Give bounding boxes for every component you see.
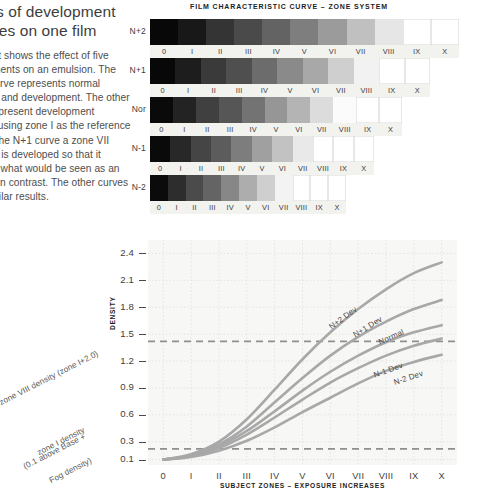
zone-swatch (231, 136, 251, 162)
zone-swatch (272, 136, 292, 162)
zone-tick-label: VIII (354, 84, 379, 97)
zone-swatch (328, 58, 353, 84)
zone-swatch (293, 136, 313, 162)
x-axis-title: SUBJECT ZONES – EXPOSURE INCREASES (148, 482, 457, 489)
zone-tick-label: 0 (150, 123, 173, 136)
zone-tick-label: II (196, 123, 219, 136)
zone-tick-label: III (226, 84, 251, 97)
zone-tick-label: VII (275, 201, 293, 214)
zone-swatch (277, 58, 302, 84)
zone-tick-label: III (211, 162, 231, 175)
x-axis-tick-label: VII (344, 471, 372, 481)
zone-swatch-set (150, 97, 402, 123)
zone-swatch (265, 97, 288, 123)
zone-tick-label: IV (242, 123, 265, 136)
zone-swatch (150, 58, 175, 84)
plot-svg (110, 235, 477, 493)
y-axis-tick-mark (139, 307, 146, 308)
x-axis-tick-label: VIII (372, 471, 400, 481)
zone-strip-row: N+20IIIIIIIVVVIVIIVIIIIXX (114, 19, 477, 58)
y-axis-tick-label: 0.9 (108, 381, 134, 392)
x-axis-tick-label: V (289, 471, 317, 481)
zone-swatch (234, 19, 262, 45)
zone-tick-label: V (290, 45, 318, 58)
y-axis-tick-mark (139, 388, 146, 389)
zone-swatch (403, 19, 431, 45)
zone-swatch (356, 97, 379, 123)
zone-swatch (290, 19, 318, 45)
zone-tick-label: 0 (150, 162, 170, 175)
y-axis-tick-mark (139, 361, 146, 362)
zone-swatch (333, 136, 353, 162)
zone-tick-label: VII (293, 162, 313, 175)
zone-tick-label: X (405, 84, 430, 97)
zone-swatch (150, 136, 170, 162)
zone-tick-label: VII (310, 123, 333, 136)
zone-swatch (379, 58, 404, 84)
zone-tick-label: X (354, 162, 374, 175)
zone-tick-row: 0IIIIIIIVVVIVIIVIIIIXX (150, 45, 459, 58)
zone-strip-label: N+2 (114, 26, 146, 36)
zone-tick-label: IX (356, 123, 379, 136)
y-axis-tick-mark (139, 280, 146, 281)
zone-strip-label: N+1 (114, 65, 146, 75)
zone-tick-label: 0 (150, 45, 178, 58)
zone-swatch (318, 19, 346, 45)
x-axis-tick-label: IX (400, 471, 428, 481)
zone-swatch (252, 136, 272, 162)
zone-swatch (178, 19, 206, 45)
zone-swatch (186, 175, 204, 201)
zone-tick-label: 0 (150, 201, 168, 214)
zone-tick-label: I (168, 201, 186, 214)
x-axis-tick-label: III (233, 471, 261, 481)
zone-swatch (211, 136, 231, 162)
zone-tick-label: VI (272, 162, 292, 175)
zone-swatch (150, 19, 178, 45)
zone-swatch (191, 136, 211, 162)
zone-swatch (405, 58, 430, 84)
zone-strip-label: N-2 (114, 182, 146, 192)
zone-swatch (150, 175, 168, 201)
zone-swatch (257, 175, 275, 201)
zone-swatch (347, 19, 375, 45)
y-axis-tick-mark (139, 415, 146, 416)
zone-swatch (354, 136, 374, 162)
zone-swatch (206, 19, 234, 45)
zone-tick-label: IV (231, 162, 251, 175)
zone-swatch (333, 97, 356, 123)
zone-tick-label: V (239, 201, 257, 214)
zone-tick-label: IV (252, 84, 277, 97)
zone-swatch-set (150, 58, 430, 84)
y-axis-tick-label: 0.1 (108, 453, 134, 464)
y-axis-tick-mark (139, 253, 146, 254)
annotation-zone-viii-density: zone VIII density (zone I+2.0) (0, 349, 100, 407)
zone-swatch (173, 97, 196, 123)
zone-tick-label: I (173, 123, 196, 136)
y-axis-tick-label: 2.1 (108, 274, 134, 285)
y-axis-tick-label: 2.4 (108, 247, 134, 258)
zone-strip-row: N-20IIIIIIIVVVIVIIVIIIIXX (114, 175, 477, 214)
article-body: This chart shows the effect of five deve… (0, 49, 132, 204)
chart-title: FILM CHARACTERISTIC CURVE – ZONE SYSTEM (190, 3, 388, 10)
zone-swatch (203, 175, 221, 201)
zone-tick-label: VI (287, 123, 310, 136)
zone-strip-label: N-1 (114, 143, 146, 153)
zone-swatch (303, 58, 328, 84)
article-title: Effects of development changes on one fi… (0, 2, 132, 40)
x-axis-tick-label: I (177, 471, 205, 481)
zone-tick-label: II (191, 162, 211, 175)
zone-swatch (293, 175, 311, 201)
zone-tick-label: II (186, 201, 204, 214)
zone-swatch-set (150, 136, 374, 162)
zone-tick-label: V (265, 123, 288, 136)
zone-tick-label: 0 (150, 84, 175, 97)
zone-swatch (287, 97, 310, 123)
zone-tick-label: VI (318, 45, 346, 58)
zone-swatch (175, 58, 200, 84)
zone-swatch (431, 19, 459, 45)
article-text-column: Effects of development changes on one fi… (0, 2, 132, 204)
zone-tick-label: VIII (333, 123, 356, 136)
zone-tick-label: I (178, 45, 206, 58)
zone-tick-label: VIII (375, 45, 403, 58)
zone-swatch (354, 58, 379, 84)
